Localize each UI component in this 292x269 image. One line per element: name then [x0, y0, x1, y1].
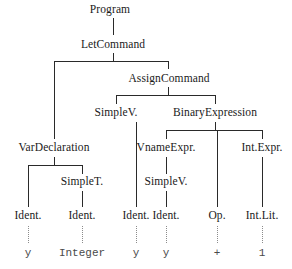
- edge-ident2-to-terminal-integer: [82, 226, 83, 243]
- terminal-y-operand: y: [163, 248, 170, 259]
- node-op: Op.: [208, 210, 225, 222]
- edge-op-to-terminal-plus: [217, 226, 218, 243]
- edge-assigncommand-bar: [116, 95, 215, 96]
- edge-vardeclaration-stem: [54, 157, 55, 165]
- terminal-y-declared: y: [25, 248, 32, 259]
- edge-ident1-to-terminal-y: [28, 226, 29, 243]
- ast-diagram: Program LetCommand AssignCommand SimpleV…: [0, 0, 292, 269]
- edge-ident3-to-terminal-y: [136, 226, 137, 243]
- edge-letcommand-bar: [54, 61, 168, 62]
- edge-vardeclaration-bar: [28, 165, 82, 166]
- node-let-command: LetCommand: [81, 39, 145, 51]
- edge-vardeclaration-to-ident: [28, 165, 29, 207]
- node-int-lit: Int.Lit.: [246, 210, 279, 222]
- edge-assigncommand-stem: [168, 87, 169, 95]
- edge-simplet-to-ident: [82, 191, 83, 207]
- edge-letcommand-to-vardeclaration: [54, 61, 55, 139]
- node-binary-expression: BinaryExpression: [173, 107, 257, 119]
- node-var-declaration: VarDeclaration: [18, 142, 89, 154]
- node-ident-4: Ident.: [152, 210, 179, 222]
- edge-program-letcommand: [113, 18, 114, 35]
- node-program: Program: [90, 4, 130, 16]
- edge-binaryexpression-to-vnameexpr: [166, 130, 167, 139]
- node-simple-v-rhs: SimpleV.: [144, 176, 187, 188]
- node-int-expr: Int.Expr.: [241, 142, 282, 154]
- terminal-integer: Integer: [59, 248, 105, 259]
- edge-intlit-to-terminal-one: [262, 226, 263, 243]
- edge-ident4-to-terminal-y: [166, 226, 167, 243]
- node-vname-expr: VnameExpr.: [137, 142, 196, 154]
- edge-binaryexpression-bar: [166, 130, 262, 131]
- node-ident-1: Ident.: [14, 210, 41, 222]
- edge-simplev-lhs-to-ident: [136, 122, 137, 207]
- terminal-plus-operator: +: [214, 248, 221, 259]
- terminal-y-assign-target: y: [133, 248, 140, 259]
- terminal-one: 1: [259, 248, 266, 259]
- edge-binaryexpression-stem: [215, 122, 216, 130]
- node-simple-v-lhs: SimpleV.: [94, 107, 137, 119]
- node-ident-2: Ident.: [68, 210, 95, 222]
- edge-assigncommand-to-binaryexpression: [215, 95, 216, 104]
- edge-letcommand-to-assigncommand: [168, 61, 169, 69]
- node-assign-command: AssignCommand: [128, 73, 209, 85]
- node-simple-t: SimpleT.: [61, 176, 103, 188]
- edge-binaryexpression-to-intexpr: [262, 130, 263, 139]
- node-ident-3: Ident.: [122, 210, 149, 222]
- edge-vnameexpr-to-simplev: [166, 157, 167, 174]
- edge-vardeclaration-to-simplet: [82, 165, 83, 174]
- edge-assigncommand-to-simplev: [116, 95, 117, 104]
- edge-simplev-rhs-to-ident: [166, 191, 167, 207]
- edge-intexpr-to-intlit: [262, 157, 263, 207]
- edge-binaryexpression-to-op: [217, 130, 218, 207]
- edge-letcommand-stem: [113, 53, 114, 61]
